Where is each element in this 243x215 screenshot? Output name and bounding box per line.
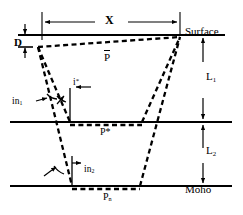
label-surface: Surface	[185, 26, 219, 37]
label-layer2-letter: L	[206, 144, 213, 156]
label-direct-phase-p-bar: P	[104, 52, 110, 63]
label-layer1-thickness: L1	[206, 71, 216, 83]
label-incidence-angle-in1: in1	[12, 97, 22, 107]
label-p-bar-letter: P	[104, 52, 110, 63]
label-layer2-thickness: L2	[206, 145, 216, 157]
angle-marker-in2	[44, 156, 81, 186]
label-pn-subscript: n	[109, 195, 112, 202]
label-in1-subscript: 1	[19, 100, 22, 106]
label-incidence-angle-in2: in2	[84, 165, 94, 175]
angle-marker-in1	[36, 94, 57, 101]
label-layer1-subscript: 1	[213, 76, 216, 83]
label-depth-d: D	[14, 37, 22, 48]
label-istar-superscript: *	[76, 77, 79, 84]
label-moho: Moho	[185, 184, 211, 195]
label-layer1-letter: L	[206, 70, 213, 82]
label-moho-phase-pn: Pn	[103, 192, 112, 203]
label-in2-subscript: 2	[91, 168, 94, 174]
label-distance-x: X	[105, 14, 114, 26]
label-layer2-subscript: 2	[213, 150, 216, 157]
ray-path-direct-p	[38, 37, 180, 47]
seismic-ray-path-diagram: Surface Moho D X L1 L2 P P* Pn in1 in2 i…	[0, 0, 243, 215]
label-critical-angle-istar: i*	[73, 78, 79, 88]
label-refracted-phase-pstar: P*	[100, 127, 111, 137]
